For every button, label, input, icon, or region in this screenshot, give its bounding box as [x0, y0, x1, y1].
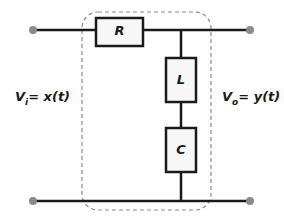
inductor-label: L	[166, 72, 196, 87]
output-voltage-var: V	[222, 89, 232, 104]
terminal-output-top	[246, 26, 254, 34]
terminal-input-top	[29, 26, 37, 34]
circuit-diagram: R L C Vi= x(t) Vo= y(t)	[0, 0, 284, 220]
terminal-input-bottom	[29, 197, 37, 205]
output-voltage-rhs: = y(t)	[238, 89, 280, 104]
terminal-output-bottom	[246, 197, 254, 205]
input-voltage-label: Vi= x(t)	[15, 89, 70, 107]
input-voltage-var: V	[15, 89, 25, 104]
capacitor-label: C	[166, 142, 196, 157]
input-voltage-rhs: = x(t)	[28, 89, 70, 104]
output-voltage-label: Vo= y(t)	[222, 89, 280, 107]
resistor-label: R	[96, 23, 143, 38]
